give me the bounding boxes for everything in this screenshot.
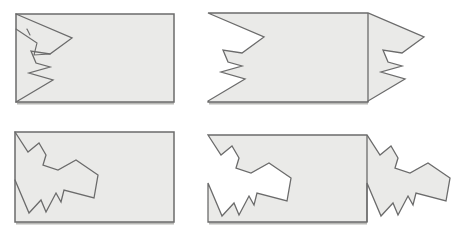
paper-rectangle (15, 132, 174, 222)
paper-rectangle (16, 14, 174, 102)
panel-top-left-rect-with-tear (16, 14, 174, 103)
torn-rectangle-tiling-diagram (0, 0, 455, 236)
diagram-canvas (0, 0, 455, 236)
panel-bottom-left-rect-with-tear (15, 132, 174, 223)
